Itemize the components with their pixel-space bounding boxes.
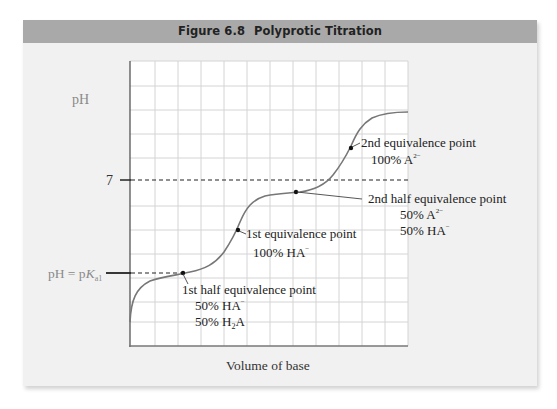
svg-text:50% A2−: 50% A2− xyxy=(400,207,443,222)
svg-text:2nd half equivalence point: 2nd half equivalence point xyxy=(368,191,507,206)
y-axis-label: pH xyxy=(72,92,89,107)
y-tick-7: 7 xyxy=(106,173,113,188)
svg-text:1st equivalence point: 1st equivalence point xyxy=(246,226,357,241)
svg-text:50% H2A: 50% H2A xyxy=(195,314,245,331)
svg-text:50% HA−: 50% HA− xyxy=(195,298,245,313)
svg-text:2nd equivalence point: 2nd equivalence point xyxy=(361,135,476,150)
svg-text:50% HA−: 50% HA− xyxy=(400,223,450,238)
plot-area xyxy=(130,61,408,346)
titration-chart: pH 7 pH = pKa1 Volume of base 1st half e… xyxy=(0,0,557,409)
svg-text:100% HA−: 100% HA− xyxy=(253,245,309,260)
x-axis-label: Volume of base xyxy=(226,358,310,373)
y-tick-pka1: pH = pKa1 xyxy=(48,266,102,283)
svg-text:100% A2−: 100% A2− xyxy=(371,152,421,167)
svg-text:1st half equivalence point: 1st half equivalence point xyxy=(182,282,316,297)
